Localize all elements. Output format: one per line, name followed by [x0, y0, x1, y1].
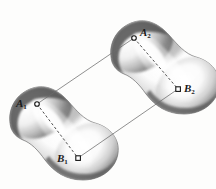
marker-point-b1: [76, 156, 81, 161]
label-point-a1: A1: [16, 98, 27, 111]
right-body: [101, 3, 216, 127]
label-point-b1: B1: [57, 153, 68, 166]
label-b1-subscript: 1: [64, 158, 68, 166]
label-a2-subscript: 2: [147, 32, 151, 40]
geometry-figure: A1 B1 A2 B2: [0, 0, 216, 189]
left-body: [0, 69, 129, 189]
marker-point-b2: [176, 87, 181, 92]
label-point-b2: B2: [184, 83, 195, 96]
label-a1-subscript: 1: [23, 103, 27, 111]
marker-point-a1: [35, 102, 40, 107]
marker-point-a2: [132, 36, 137, 41]
label-b2-subscript: 2: [191, 88, 195, 96]
label-point-a2: A2: [140, 27, 151, 40]
